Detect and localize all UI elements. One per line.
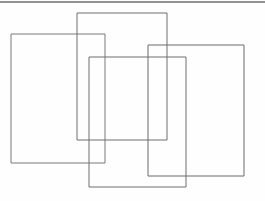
drawing-canvas <box>0 0 265 201</box>
page-background <box>0 0 265 201</box>
overlapping-rectangles-figure <box>0 0 265 201</box>
